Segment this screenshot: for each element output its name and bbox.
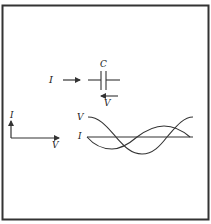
phasor-voltage-label: V [52,140,60,150]
capacitor-circuit: I C V [48,59,120,108]
voltage-label: V [104,98,112,108]
wave-current-label: I [77,131,82,141]
phasor-diagram: I V [9,110,60,150]
current-label: I [48,74,54,85]
capacitor-phase-diagram: I C V I V V I [0,0,211,224]
wave-voltage-label: V [77,112,85,122]
waveforms: V I [77,112,193,154]
phasor-current-label: I [9,110,14,120]
capacitance-label: C [100,59,107,69]
figure-frame [3,6,209,220]
